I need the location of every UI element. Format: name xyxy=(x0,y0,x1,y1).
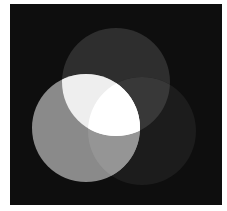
venn-diagram xyxy=(0,0,227,211)
